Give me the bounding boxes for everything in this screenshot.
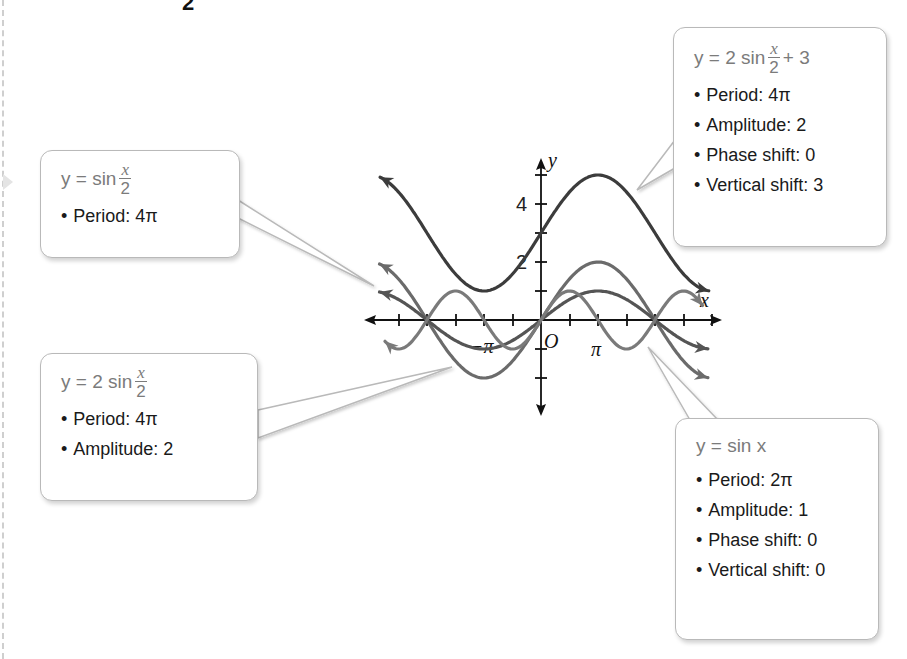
callout-sin-x: y = sin x Period: 2π Amplitude: 1 Phase … [675,418,879,640]
equation: y = sin x [696,435,878,457]
property-period: Period: 2π [696,465,878,495]
property-phase-shift: Phase shift: 0 [696,525,878,555]
fraction: x2 [135,364,147,400]
x-tick-label-neg-pi: −π [470,335,494,357]
equation: y = 2 sin x2 + 3 [694,40,886,76]
origin-label: O [544,330,558,352]
callout-two-sin-half-plus-3: y = 2 sin x2 + 3 Period: 4π Amplitude: 2… [673,27,887,247]
x-tick-label-pi: π [591,338,602,360]
property-period: Period: 4π [61,404,257,434]
pointer-two-sin-half-plus3 [637,140,675,190]
fraction: x2 [119,161,131,197]
y-axis-label: y [546,149,557,172]
property-period: Period: 4π [61,201,239,231]
property-vertical-shift: Vertical shift: 3 [694,170,886,200]
pointer-sin-x [648,347,718,420]
property-amplitude: Amplitude: 2 [694,110,886,140]
fraction: x2 [768,40,780,76]
property-list: Period: 4π [61,201,239,231]
callout-two-sin-half: y = 2 sin x2 Period: 4π Amplitude: 2 [40,353,258,501]
equation: y = sin x2 [61,161,239,197]
property-vertical-shift: Vertical shift: 0 [696,555,878,585]
property-phase-shift: Phase shift: 0 [694,140,886,170]
property-amplitude: Amplitude: 2 [61,434,257,464]
callout-sin-half: y = sin x2 Period: 4π [40,150,240,258]
pointer-two-sin-half [258,367,452,438]
property-list: Period: 4π Amplitude: 2 Phase shift: 0 V… [694,80,886,200]
property-period: Period: 4π [694,80,886,110]
property-list: Period: 2π Amplitude: 1 Phase shift: 0 V… [696,465,878,585]
pointer-sin-half [238,200,374,286]
equation: y = 2 sin x2 [61,364,257,400]
y-tick-label-4: 4 [516,193,527,215]
property-list: Period: 4π Amplitude: 2 [61,404,257,464]
property-amplitude: Amplitude: 1 [696,495,878,525]
